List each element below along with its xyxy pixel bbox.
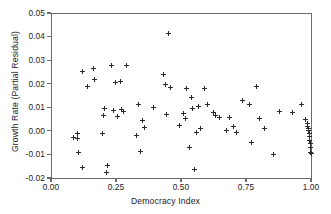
y-tick-label: -0.01 (26, 150, 45, 158)
data-point-marker (101, 113, 106, 118)
y-tick-mark (47, 83, 51, 84)
y-tick-label: 0.04 (28, 32, 45, 40)
data-point-marker (217, 115, 222, 120)
data-point-marker (257, 116, 262, 121)
data-point-marker (187, 145, 192, 150)
data-point-marker (75, 131, 80, 136)
data-point-marker (231, 124, 236, 129)
data-point-marker (80, 69, 85, 74)
y-tick-mark (47, 130, 51, 131)
y-tick-label: -0.02 (26, 174, 45, 182)
data-point-marker (198, 126, 203, 131)
data-point-marker (161, 72, 166, 77)
scatter-plot-figure: 0.050.040.030.020.010.00-0.01-0.02 0.000… (0, 0, 331, 214)
data-point-marker (91, 66, 96, 71)
data-point-marker (227, 115, 232, 120)
x-tick-label: 0.25 (96, 183, 136, 191)
data-point-marker (92, 77, 97, 82)
y-tick-label: 0.01 (28, 103, 45, 111)
y-tick-mark (47, 154, 51, 155)
y-tick-label: 0.00 (28, 127, 45, 135)
data-point-marker (115, 114, 120, 119)
data-point-marker (140, 118, 145, 123)
data-point-marker (104, 170, 109, 175)
x-tick-label: 1.00 (291, 183, 331, 191)
data-point-marker (189, 95, 194, 100)
data-point-marker (271, 152, 276, 157)
data-point-marker (192, 167, 197, 172)
data-point-marker (85, 84, 90, 89)
data-point-marker (118, 79, 123, 84)
data-point-marker (121, 109, 126, 114)
axis-left-spine (51, 13, 52, 179)
data-point-marker (134, 133, 139, 138)
data-point-marker (142, 125, 147, 130)
y-tick-mark (47, 36, 51, 37)
data-point-marker (249, 140, 254, 145)
y-tick-label: 0.02 (28, 80, 45, 88)
data-point-marker (109, 63, 114, 68)
data-point-marker (190, 106, 195, 111)
data-point-marker (254, 84, 259, 89)
data-point-marker (202, 86, 207, 91)
data-point-marker (184, 86, 189, 91)
data-point-marker (168, 85, 173, 90)
data-point-marker (151, 105, 156, 110)
data-point-marker (111, 108, 116, 113)
x-axis-title: Democracy Index (0, 197, 331, 206)
data-point-marker (136, 102, 141, 107)
data-point-marker (75, 136, 80, 141)
data-point-marker (124, 63, 129, 68)
data-point-marker (164, 112, 169, 117)
data-point-marker (102, 106, 107, 111)
y-tick-mark (47, 60, 51, 61)
x-tick-label: 0.75 (226, 183, 266, 191)
axis-top-spine (51, 13, 312, 14)
data-point-marker (100, 131, 105, 136)
x-tick-label: 0.50 (161, 183, 201, 191)
y-tick-mark (47, 12, 51, 13)
data-point-marker (166, 31, 171, 36)
data-point-marker (196, 104, 201, 109)
data-point-marker (205, 102, 210, 107)
data-point-marker (234, 130, 239, 135)
data-point-marker (247, 102, 252, 107)
data-point-marker (183, 116, 188, 121)
data-point-marker (138, 149, 143, 154)
y-tick-label: 0.05 (28, 9, 45, 17)
data-point-marker (240, 98, 245, 103)
data-point-marker (177, 123, 182, 128)
x-tick-label: 0.00 (31, 183, 71, 191)
data-point-marker (80, 165, 85, 170)
data-point-marker (262, 126, 267, 131)
y-tick-mark (47, 107, 51, 108)
data-point-marker (309, 151, 314, 156)
data-point-marker (299, 102, 304, 107)
data-point-marker (76, 150, 81, 155)
data-point-marker (224, 128, 229, 133)
data-point-marker (105, 163, 110, 168)
data-point-marker (290, 110, 295, 115)
data-point-marker (277, 109, 282, 114)
y-tick-label: 0.03 (28, 56, 45, 64)
y-axis-title: Growth Rate (Partial Residual) (11, 12, 20, 172)
